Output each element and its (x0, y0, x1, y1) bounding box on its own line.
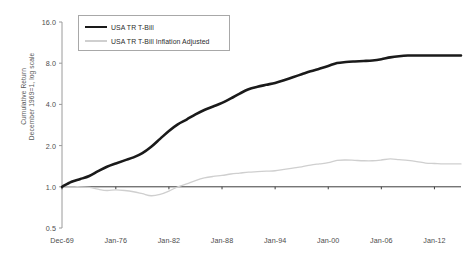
legend-label-tbill-inflation-adjusted: USA TR T-Bill Inflation Adjusted (111, 38, 209, 45)
y-tick-label: 1.0 (30, 183, 56, 192)
legend-swatch-tbill-inflation-adjusted (85, 40, 107, 41)
legend-item-tbill-inflation-adjusted: USA TR T-Bill Inflation Adjusted (85, 35, 209, 47)
x-tick-label: Jan-06 (357, 236, 405, 245)
x-tick-label: Jan-12 (410, 236, 458, 245)
x-tick-label: Jan-76 (92, 236, 140, 245)
y-tick-label: 4.0 (30, 100, 56, 109)
x-tick-label: Jan-94 (251, 236, 299, 245)
x-tick-label: Jan-82 (145, 236, 193, 245)
legend-label-tbill: USA TR T-Bill (111, 24, 154, 31)
chart-container: Cumulative Return December 1969=1, log s… (0, 0, 469, 254)
y-tick-label: 2.0 (30, 142, 56, 151)
plot-area (0, 0, 469, 254)
legend-item-tbill: USA TR T-Bill (85, 21, 154, 33)
chart-legend: USA TR T-Bill USA TR T-Bill Inflation Ad… (78, 15, 230, 51)
x-tick-label: Dec-69 (38, 236, 86, 245)
legend-swatch-tbill (85, 26, 107, 29)
y-tick-label: 8.0 (30, 59, 56, 68)
x-tick-label: Jan-88 (198, 236, 246, 245)
y-tick-label: 0.5 (30, 224, 56, 233)
y-tick-label: 16.0 (30, 18, 56, 27)
x-tick-label: Jan-00 (304, 236, 352, 245)
